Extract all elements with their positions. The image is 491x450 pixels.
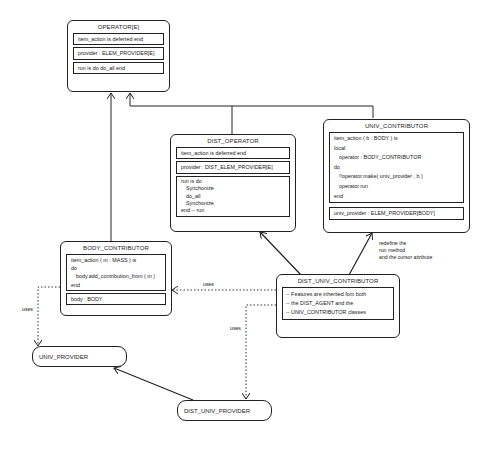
class-dist-univ-provider[interactable]: DIST_UNIV_PROVIDER bbox=[177, 400, 272, 421]
class-univ-contributor[interactable]: UNIV_CONTRIBUTOR item_action ( b : BODY … bbox=[323, 119, 470, 233]
class-body-contributor[interactable]: BODY_CONTRIBUTOR item_action ( m : MASS … bbox=[60, 241, 172, 316]
inherit-arrow-to-dist-operator bbox=[260, 232, 301, 275]
class-title: DIST_OPERATOR bbox=[176, 138, 290, 144]
inherit-arrow-to-univ-provider bbox=[114, 368, 193, 400]
class-notes: -- Features are inherited fom both -- th… bbox=[282, 287, 394, 320]
inherit-arrow-to-operator bbox=[130, 93, 232, 134]
uses-arrow-to-univ-provider bbox=[38, 287, 60, 346]
uses-label-middle: uses bbox=[203, 281, 214, 288]
feature-item-action: item_action ( m : MASS ) is do body.add_… bbox=[66, 254, 166, 291]
uses-label-bottom: uses bbox=[230, 325, 241, 332]
class-univ-provider[interactable]: UNIV_PROVIDER bbox=[32, 346, 127, 367]
feature-run: run is do Synchonize do_all Synchonize e… bbox=[176, 176, 290, 217]
uses-label-left: uses bbox=[22, 306, 33, 313]
class-dist-operator[interactable]: DIST_OPERATOR item_action is deferred en… bbox=[170, 134, 296, 232]
feature-item-action: item_action is deferred end bbox=[176, 147, 290, 159]
feature-run: run is do do_all end bbox=[73, 62, 164, 74]
feature-univ-provider: univ_provider : ELEM_PROVIDER[BODY] bbox=[329, 207, 464, 219]
redefine-note: redefine the run method and the cursor a… bbox=[379, 240, 432, 261]
class-title: OPERATOR[E] bbox=[73, 24, 164, 30]
class-dist-univ-contributor[interactable]: DIST_UNIV_CONTRIBUTOR -- Features are in… bbox=[276, 274, 400, 338]
feature-item-action: item_action is deferred end bbox=[73, 33, 164, 45]
feature-item-action: item_action ( b : BODY ) is local operat… bbox=[329, 132, 464, 203]
class-operator[interactable]: OPERATOR[E] item_action is deferred end … bbox=[67, 20, 170, 92]
uses-arrow-to-dist-univ-provider bbox=[246, 305, 276, 399]
class-title: UNIV_CONTRIBUTOR bbox=[329, 123, 464, 129]
feature-provider: provider : DIST_ELEM_PROVIDER[E] bbox=[176, 161, 290, 173]
class-title: DIST_UNIV_CONTRIBUTOR bbox=[282, 278, 394, 284]
feature-provider: provider : ELEM_PROVIDER[E] bbox=[73, 47, 164, 59]
inherit-arrow-to-univ-contributor bbox=[349, 233, 372, 275]
class-title: BODY_CONTRIBUTOR bbox=[66, 245, 166, 251]
feature-body: body : BODY bbox=[66, 293, 166, 305]
